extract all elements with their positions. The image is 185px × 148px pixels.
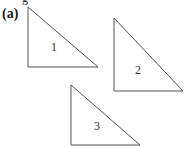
triangles-diagram (0, 0, 185, 148)
triangle-3 (71, 85, 140, 145)
triangle-3-label: 3 (94, 119, 100, 134)
triangle-1 (28, 7, 98, 67)
triangle-2-label: 2 (135, 63, 141, 78)
triangle-1-label: 1 (51, 40, 57, 55)
triangle-2 (114, 18, 183, 91)
